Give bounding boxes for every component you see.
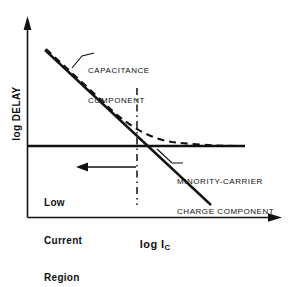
low-current-line1: Low	[44, 197, 82, 210]
x-axis-label: log IC	[126, 226, 171, 264]
low-current-line2: Current	[44, 235, 82, 248]
minority-label-line1: MINORITY-CARRIER	[177, 177, 274, 187]
up-arrow-icon	[24, 16, 32, 30]
capacitance-label-line2: COMPONENT	[88, 96, 150, 106]
low-current-region-arrow	[76, 163, 136, 172]
y-axis	[24, 16, 32, 218]
x-axis-label-subscript: C	[164, 243, 170, 252]
left-arrow-icon	[76, 163, 88, 172]
low-current-region-label: Low Current Region	[44, 172, 82, 287]
x-axis-label-text: log I	[140, 238, 165, 250]
minority-label-line2: CHARGE COMPONENT	[177, 207, 274, 217]
low-current-line3: Region	[44, 272, 82, 285]
minority-carrier-label: MINORITY-CARRIER CHARGE COMPONENT	[177, 157, 274, 237]
capacitance-label-line1: CAPACITANCE	[88, 66, 150, 76]
y-axis-label: log DELAY	[11, 84, 22, 144]
capacitance-component-label: CAPACITANCE COMPONENT	[88, 46, 150, 126]
